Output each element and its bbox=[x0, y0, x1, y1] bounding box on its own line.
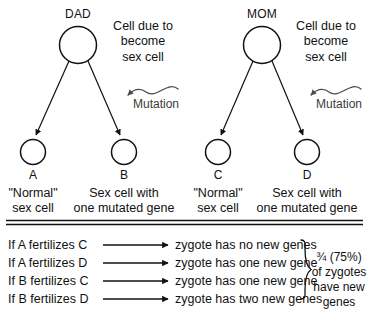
gamete-desc-D: Sex cell with one mutated gene bbox=[257, 186, 358, 216]
gamete-cell-D bbox=[295, 140, 320, 165]
outcome-summary-line-1: ¾ (75%) bbox=[312, 250, 367, 265]
outcome-summary-line-4: genes bbox=[312, 295, 367, 310]
outcome-condition-3: If B fertilizes D bbox=[8, 292, 89, 307]
gamete-desc-C-line-1: "Normal" bbox=[193, 186, 242, 201]
gamete-desc-A-line-1: "Normal" bbox=[8, 186, 57, 201]
parent-label-mom: MOM bbox=[247, 7, 277, 21]
genetics-mutation-diagram: DAD Cell due to become sex cell Mutation… bbox=[0, 0, 369, 327]
parent-label-dad: DAD bbox=[65, 7, 91, 21]
outcome-result-0: zygote has no new genes bbox=[175, 238, 317, 253]
gamete-desc-A-line-2: sex cell bbox=[8, 201, 57, 216]
outcome-result-1: zygote has one new gene bbox=[175, 256, 317, 271]
branch-mom-to-C bbox=[221, 61, 253, 135]
parent-note-dad-line-1: Cell due to bbox=[113, 19, 173, 34]
gamete-letter-B: B bbox=[120, 168, 128, 182]
branch-dad-to-A bbox=[36, 61, 69, 135]
parent-note-mom-line-2: become bbox=[296, 34, 356, 49]
mutation-label-mom: Mutation bbox=[316, 97, 362, 111]
parent-note-dad-line-2: become bbox=[113, 34, 173, 49]
parent-cell-dad bbox=[60, 27, 97, 64]
gamete-cell-A bbox=[21, 140, 46, 165]
mutation-squiggle-mom bbox=[311, 87, 361, 95]
outcome-result-3: zygote has two new genes bbox=[175, 292, 322, 307]
outcome-condition-1: If A fertilizes D bbox=[8, 256, 87, 271]
outcome-summary-line-2: of zygotes bbox=[312, 265, 367, 280]
gamete-letter-D: D bbox=[303, 168, 312, 182]
gamete-desc-B-line-2: one mutated gene bbox=[74, 201, 175, 216]
gamete-desc-D-line-2: one mutated gene bbox=[257, 201, 358, 216]
mutation-squiggle-dad bbox=[128, 87, 178, 95]
parent-note-mom-line-3: sex cell bbox=[296, 50, 356, 65]
parent-note-dad: Cell due to become sex cell bbox=[113, 19, 173, 65]
gamete-desc-A: "Normal" sex cell bbox=[8, 186, 57, 216]
gamete-letter-A: A bbox=[29, 168, 37, 182]
parent-note-mom: Cell due to become sex cell bbox=[296, 19, 356, 65]
gamete-cell-C bbox=[206, 140, 231, 165]
branch-mom-to-D bbox=[272, 61, 303, 135]
outcome-condition-0: If A fertilizes C bbox=[8, 238, 87, 253]
branch-dad-to-B bbox=[88, 61, 120, 135]
gamete-desc-C-line-2: sex cell bbox=[193, 201, 242, 216]
parent-note-dad-line-3: sex cell bbox=[113, 50, 173, 65]
gamete-desc-C: "Normal" sex cell bbox=[193, 186, 242, 216]
gamete-desc-B: Sex cell with one mutated gene bbox=[74, 186, 175, 216]
parent-note-mom-line-1: Cell due to bbox=[296, 19, 356, 34]
parent-cell-mom bbox=[244, 27, 281, 64]
gamete-cell-B bbox=[112, 140, 137, 165]
outcome-summary-line-3: have new bbox=[312, 280, 367, 295]
outcome-result-2: zygote has one new gene bbox=[175, 274, 317, 289]
gamete-letter-C: C bbox=[214, 168, 223, 182]
gamete-desc-D-line-1: Sex cell with bbox=[257, 186, 358, 201]
outcome-summary: ¾ (75%) of zygotes have new genes bbox=[312, 250, 367, 310]
gamete-desc-B-line-1: Sex cell with bbox=[74, 186, 175, 201]
outcome-condition-2: If B fertilizes C bbox=[8, 274, 89, 289]
mutation-label-dad: Mutation bbox=[133, 97, 179, 111]
